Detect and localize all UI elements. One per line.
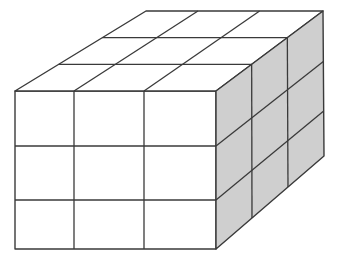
cube-diagram [0,0,347,264]
cube [15,11,324,249]
front-face [15,91,216,249]
side-grid-line [287,38,288,187]
